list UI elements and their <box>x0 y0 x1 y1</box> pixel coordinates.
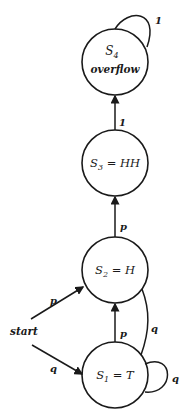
svg-text:S2 = H: S2 = H <box>95 263 136 279</box>
svg-text:S3 = HH: S3 = HH <box>90 156 141 172</box>
transition-start-s1: q <box>32 345 82 374</box>
svg-text:S4: S4 <box>105 44 118 60</box>
state-s2: S2 = H <box>82 237 148 303</box>
svg-text:overflow: overflow <box>91 63 141 75</box>
svg-text:1: 1 <box>155 15 162 26</box>
svg-text:p: p <box>120 328 127 339</box>
transition-s2-s1: q <box>141 289 158 355</box>
transition-s3-s4: 1 <box>115 96 126 130</box>
svg-text:p: p <box>50 295 57 306</box>
transition-start-s2: p <box>31 287 83 319</box>
transition-s2-s3: p <box>115 197 127 237</box>
svg-text:q: q <box>50 363 57 374</box>
svg-text:q: q <box>172 373 179 384</box>
state-s1: S1 = T <box>82 342 148 408</box>
state-s3: S3 = HH <box>82 130 148 196</box>
transition-s1-self: q <box>145 362 179 392</box>
svg-text:q: q <box>151 323 158 334</box>
svg-text:S1 = T: S1 = T <box>96 368 135 384</box>
transition-s4-self: 1 <box>115 15 162 47</box>
svg-text:p: p <box>120 221 127 232</box>
start-label: start <box>10 325 38 337</box>
state-diagram: S4 overflow S3 = HH S2 = H S1 = T 1 1 p <box>0 0 188 420</box>
transition-s1-s2: p <box>115 304 127 342</box>
state-s4: S4 overflow <box>82 29 148 95</box>
svg-text:1: 1 <box>119 117 126 128</box>
